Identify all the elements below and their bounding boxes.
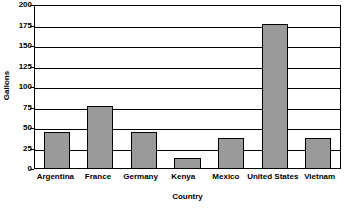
bar: [262, 24, 288, 168]
y-axis-title-label: Gallons: [3, 70, 12, 99]
y-axis-tick-mark: [30, 26, 34, 27]
y-axis-tick-mark: [30, 169, 34, 170]
bars-group: [35, 6, 340, 168]
x-axis-tick-label: Germany: [119, 172, 162, 186]
x-axis-tick-label: United States: [247, 172, 298, 186]
bar-slot: [35, 6, 79, 168]
y-axis-tick-label: 200: [12, 1, 32, 9]
y-axis-tick-label: 175: [12, 22, 32, 30]
x-axis-tick-label: Mexico: [205, 172, 248, 186]
x-axis-tick-label: Vietnam: [298, 172, 341, 186]
bar-slot: [122, 6, 166, 168]
bar-slot: [209, 6, 253, 168]
plot-area: [34, 5, 341, 169]
y-axis-tick-label: 75: [12, 104, 32, 112]
y-axis-tick-label: 50: [12, 124, 32, 132]
x-axis-tick-label: Kenya: [162, 172, 205, 186]
y-axis-tick-mark: [30, 87, 34, 88]
bar: [44, 132, 70, 168]
bar-slot: [79, 6, 123, 168]
x-axis-tick-label: France: [77, 172, 120, 186]
y-axis-tick-mark: [30, 67, 34, 68]
y-axis-tick-label: 150: [12, 42, 32, 50]
y-axis-tick-label: 100: [12, 83, 32, 91]
bar-slot: [253, 6, 297, 168]
bar: [218, 138, 244, 168]
y-axis-tick-mark: [30, 149, 34, 150]
bar-slot: [166, 6, 210, 168]
y-axis-tick-labels: 0255075100125150175200: [12, 5, 32, 169]
y-axis-tick-mark: [30, 5, 34, 6]
y-axis-tick-mark: [30, 46, 34, 47]
y-axis-tick-label: 25: [12, 145, 32, 153]
bar: [87, 106, 113, 168]
x-axis-tick-label: Argentina: [34, 172, 77, 186]
y-axis-tick-label: 0: [12, 165, 32, 173]
bar-chart: Gallons 0255075100125150175200 Argentina…: [0, 0, 346, 216]
y-axis-tick-mark: [30, 128, 34, 129]
x-axis-tick-labels: ArgentinaFranceGermanyKenyaMexicoUnited …: [34, 172, 341, 186]
x-axis-title: Country: [34, 192, 341, 201]
bar: [305, 138, 331, 168]
bar: [131, 132, 157, 168]
y-axis-tick-label: 125: [12, 63, 32, 71]
y-axis-tick-mark: [30, 108, 34, 109]
bar-slot: [296, 6, 340, 168]
bar: [174, 158, 200, 168]
